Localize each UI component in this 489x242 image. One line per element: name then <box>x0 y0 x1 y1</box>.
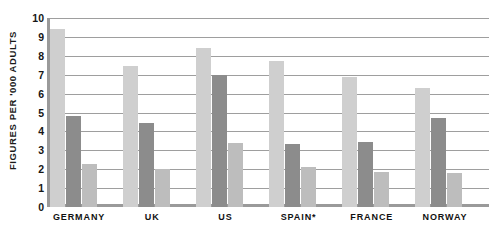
y-axis-tick-labels: 10 9 8 7 6 5 4 3 2 1 0 <box>26 18 46 207</box>
bar-group <box>269 18 342 207</box>
y-tick-3: 3 <box>38 145 44 156</box>
bar <box>358 142 373 207</box>
bar <box>431 118 446 207</box>
category-label: NORWAY <box>415 212 488 232</box>
y-tick-2: 2 <box>38 164 44 175</box>
bar-group <box>415 18 488 207</box>
y-axis-title-text: FIGURES PER '000 ADULTS <box>8 30 19 169</box>
bar-group <box>196 18 269 207</box>
bar <box>269 61 284 207</box>
category-label: FRANCE <box>342 212 415 232</box>
bar <box>447 173 462 207</box>
y-tick-10: 10 <box>32 13 44 24</box>
y-tick-7: 7 <box>38 69 44 80</box>
y-tick-1: 1 <box>38 183 44 194</box>
bar <box>285 144 300 207</box>
y-tick-5: 5 <box>38 107 44 118</box>
category-label: GERMANY <box>50 212 123 232</box>
bar <box>155 169 170 207</box>
bar-group <box>50 18 123 207</box>
bar <box>196 48 211 207</box>
bar <box>50 29 65 207</box>
category-label: US <box>196 212 269 232</box>
bar <box>415 88 430 207</box>
bar <box>342 77 357 207</box>
bar-group <box>342 18 415 207</box>
x-axis-category-labels: GERMANYUKUSSPAIN*FRANCENORWAY <box>50 212 489 232</box>
bar <box>123 66 138 207</box>
y-tick-9: 9 <box>38 32 44 43</box>
bar <box>82 164 97 207</box>
bar-chart: FIGURES PER '000 ADULTS 10 9 8 7 6 5 4 3… <box>0 0 489 242</box>
bar-group <box>123 18 196 207</box>
plot-canvas <box>50 18 489 207</box>
category-label: UK <box>123 212 196 232</box>
bar <box>374 172 389 207</box>
y-tick-8: 8 <box>38 51 44 62</box>
y-tick-6: 6 <box>38 88 44 99</box>
bar-groups <box>50 18 489 207</box>
bar <box>212 75 227 207</box>
bar <box>301 167 316 207</box>
bar <box>66 116 81 207</box>
plot-area: 10 9 8 7 6 5 4 3 2 1 0 <box>26 18 489 207</box>
y-tick-4: 4 <box>38 126 44 137</box>
bar <box>228 143 243 207</box>
y-tick-0: 0 <box>38 202 44 213</box>
category-label: SPAIN* <box>269 212 342 232</box>
y-axis-title: FIGURES PER '000 ADULTS <box>0 0 26 200</box>
bar <box>139 123 154 207</box>
